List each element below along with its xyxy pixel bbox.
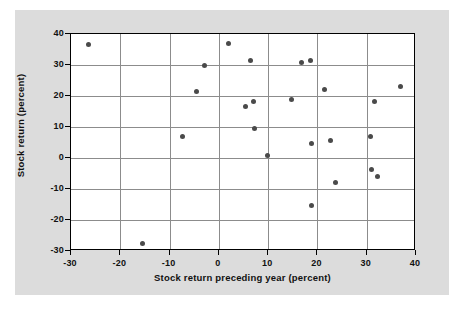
y-tick-mark (65, 126, 70, 127)
x-tick-mark (267, 250, 268, 255)
data-point (265, 153, 270, 158)
data-point (243, 104, 248, 109)
x-tick-mark (316, 250, 317, 255)
data-point (333, 180, 338, 185)
x-tick-label: -30 (63, 258, 77, 268)
data-point (251, 99, 256, 104)
y-tick-label: -10 (50, 183, 64, 193)
y-axis-ticks: -30-20-10010203040 (0, 33, 70, 250)
data-point (328, 138, 333, 143)
y-tick-label: 10 (54, 121, 64, 131)
x-axis-ticks: -30-20-10010203040 (70, 250, 415, 290)
data-point (248, 58, 253, 63)
data-point (322, 87, 327, 92)
y-tick-mark (65, 95, 70, 96)
gridline-horizontal (71, 189, 414, 190)
gridline-horizontal (71, 96, 414, 97)
data-point (368, 134, 373, 139)
data-point (289, 97, 294, 102)
data-point (140, 241, 145, 246)
data-point (202, 63, 207, 68)
gridline-horizontal (71, 65, 414, 66)
data-point (194, 89, 199, 94)
data-point (86, 42, 91, 47)
x-tick-label: 20 (311, 258, 321, 268)
gridline-vertical (120, 34, 121, 249)
gridline-vertical (219, 34, 220, 249)
x-tick-mark (218, 250, 219, 255)
y-tick-label: 0 (59, 152, 64, 162)
y-tick-mark (65, 64, 70, 65)
data-point (180, 134, 185, 139)
y-tick-mark (65, 157, 70, 158)
gridline-horizontal (71, 158, 414, 159)
x-tick-label: -10 (162, 258, 176, 268)
data-point (372, 99, 377, 104)
x-tick-label: 40 (410, 258, 420, 268)
gridline-vertical (367, 34, 368, 249)
x-tick-mark (119, 250, 120, 255)
data-point (252, 126, 257, 131)
x-tick-label: 0 (215, 258, 220, 268)
y-tick-label: -20 (50, 214, 64, 224)
y-tick-mark (65, 219, 70, 220)
data-point (309, 141, 314, 146)
y-axis-title: Stock return (percent) (15, 46, 26, 206)
y-tick-label: -30 (50, 245, 64, 255)
x-tick-label: 10 (262, 258, 272, 268)
y-tick-mark (65, 33, 70, 34)
gridline-vertical (268, 34, 269, 249)
y-tick-mark (65, 188, 70, 189)
data-point (309, 203, 314, 208)
gridline-vertical (317, 34, 318, 249)
y-tick-label: 30 (54, 59, 64, 69)
plot-area (70, 33, 415, 250)
x-tick-mark (70, 250, 71, 255)
gridline-horizontal (71, 127, 414, 128)
y-tick-label: 20 (54, 90, 64, 100)
data-point (398, 84, 403, 89)
x-tick-mark (169, 250, 170, 255)
data-point (226, 41, 231, 46)
x-axis-title: Stock return preceding year (percent) (70, 272, 415, 283)
x-tick-mark (366, 250, 367, 255)
x-tick-label: -20 (112, 258, 126, 268)
data-point (369, 167, 374, 172)
x-tick-mark (415, 250, 416, 255)
gridline-horizontal (71, 220, 414, 221)
scatter-plot: -30-20-10010203040 -30-20-10010203040 St… (0, 0, 464, 315)
data-point (308, 58, 313, 63)
x-tick-label: 30 (360, 258, 370, 268)
data-point (375, 174, 380, 179)
y-tick-label: 40 (54, 28, 64, 38)
gridline-vertical (170, 34, 171, 249)
